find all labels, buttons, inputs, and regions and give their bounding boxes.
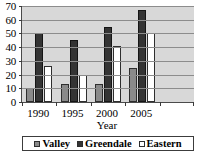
legend-item-label: Greendale [85,138,131,149]
y-tick-label: 50 [0,28,20,39]
x-tick-label: 1995 [55,106,89,120]
y-tick-mark [19,75,22,76]
legend-item-greendale[interactable]: Greendale [77,138,131,149]
gridline [22,47,194,48]
x-tick-mark [193,102,194,106]
gridline [22,61,194,62]
bar-valley-2000 [95,84,103,102]
x-axis-title: Year [21,119,193,131]
chart-legend: ValleyGreendaleEastern [22,136,194,151]
gridline [22,88,194,89]
y-tick-label: 0 [0,97,20,108]
legend-swatch-icon [139,141,145,147]
y-tick-label: 30 [0,56,20,67]
gridline [22,6,194,7]
y-tick-mark [19,20,22,21]
y-tick-mark [19,47,22,48]
y-tick-mark [19,6,22,7]
x-tick-label: 2000 [90,106,124,120]
legend-swatch-icon [77,141,83,147]
y-tick-mark [19,61,22,62]
plot-area [21,6,194,103]
plot-wrapper: 010203040506070 [0,0,200,108]
y-tick-label: 10 [0,83,20,94]
y-axis-tick-labels: 010203040506070 [0,0,20,108]
legend-item-label: Valley [42,138,70,149]
bar-greendale-1990 [35,33,43,102]
gridline [22,20,194,21]
gridline [22,75,194,76]
y-tick-mark [19,33,22,34]
legend-item-valley[interactable]: Valley [34,138,70,149]
x-tick-label: 2005 [124,106,158,120]
bar-chart: 010203040506070 1990199520002005 Year Va… [0,0,200,155]
bar-valley-2005 [129,68,137,102]
legend-swatch-icon [34,141,40,147]
x-tick-label-empty [159,106,193,120]
x-axis-tick-labels: 1990199520002005 [21,106,193,120]
legend-item-eastern[interactable]: Eastern [139,138,182,149]
y-tick-label: 60 [0,15,20,26]
bar-eastern-1990 [44,66,52,102]
gridline [22,33,194,34]
y-tick-label: 20 [0,70,20,81]
y-tick-label: 40 [0,42,20,53]
x-tick-label: 1990 [21,106,55,120]
bar-greendale-1995 [70,40,78,102]
bar-greendale-2000 [104,27,112,102]
y-tick-mark [19,88,22,89]
legend-item-label: Eastern [147,138,182,149]
bar-eastern-2005 [147,33,155,102]
bar-valley-1990 [26,88,34,102]
y-tick-label: 70 [0,1,20,12]
bar-valley-1995 [61,84,69,102]
